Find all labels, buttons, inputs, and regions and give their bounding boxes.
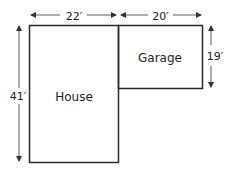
garage-label: Garage (138, 51, 182, 65)
house-width-label: 22′ (66, 10, 83, 23)
house-label: House (55, 90, 93, 104)
house-depth-dimension: 41′ (10, 26, 27, 161)
garage-depth-dimension: 19′ (207, 26, 224, 87)
garage-width-dimension: 20′ (121, 10, 201, 23)
garage-width-label: 20′ (152, 10, 169, 23)
house-width-dimension: 22′ (31, 10, 116, 23)
house-depth-label: 41′ (10, 90, 27, 103)
garage-depth-label: 19′ (207, 50, 224, 63)
floor-plan-diagram: 22′ 20′ 19′ 41′ House Garage (0, 0, 229, 173)
